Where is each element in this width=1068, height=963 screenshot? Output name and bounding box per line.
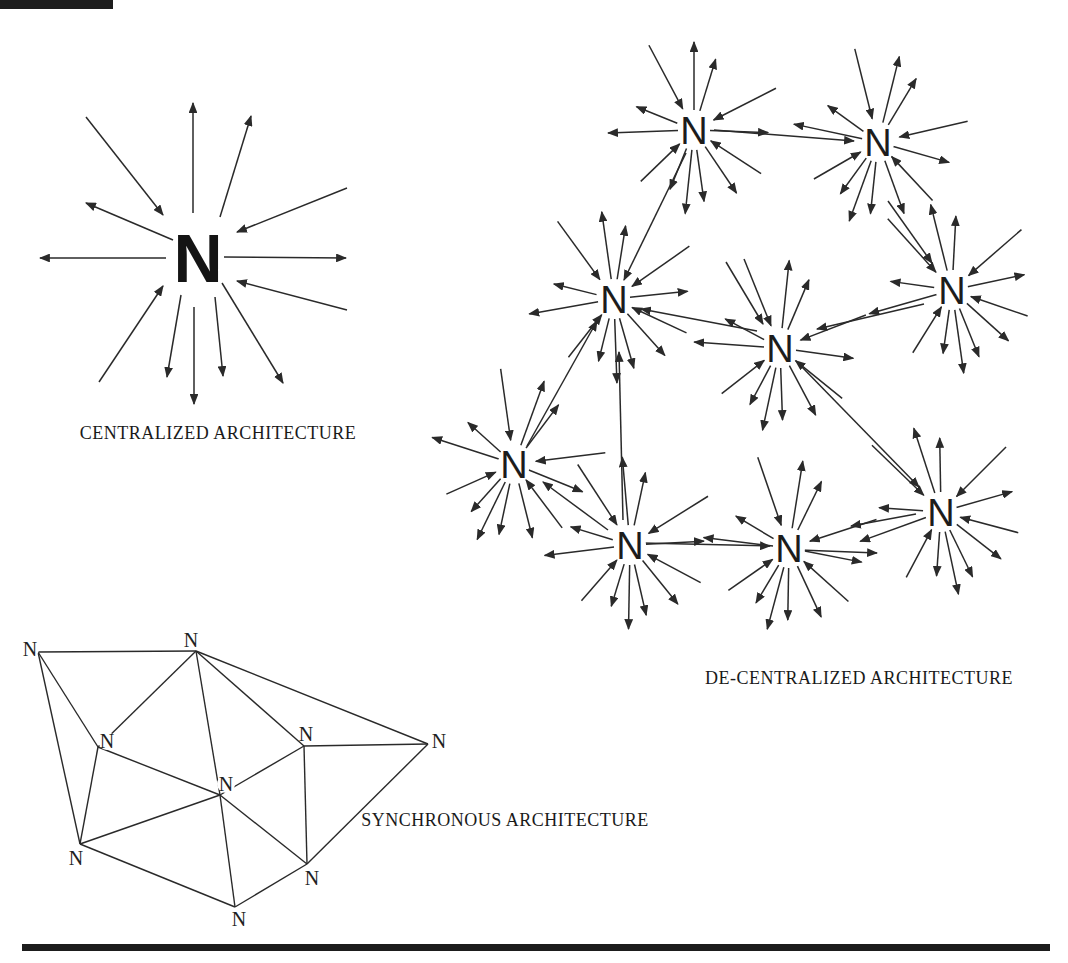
decentralized-node: N: [616, 525, 643, 567]
arrow: [641, 144, 680, 182]
mesh-edge: [38, 652, 80, 844]
mesh-edge: [196, 651, 220, 795]
arrow: [224, 257, 346, 258]
arrow: [86, 117, 163, 215]
mesh-edge: [38, 652, 98, 747]
decentralized-node: N: [927, 492, 954, 534]
arrow: [796, 361, 843, 399]
arrow: [953, 216, 956, 270]
arrow: [892, 157, 933, 201]
arrow: [697, 150, 704, 201]
arrow: [629, 565, 630, 629]
arrow: [955, 310, 964, 373]
mesh-edge: [220, 795, 307, 864]
arrow: [602, 212, 611, 279]
arrow: [611, 564, 624, 606]
decentralized-node: N: [938, 270, 965, 312]
top-left-print-mark: [0, 0, 113, 9]
arrow: [943, 310, 949, 354]
arrow: [581, 560, 616, 601]
arrow: [477, 482, 505, 540]
arrow: [870, 162, 875, 214]
arrow: [957, 447, 1006, 496]
arrow: [750, 366, 771, 405]
arrow: [767, 567, 784, 629]
centralized-node: N: [173, 220, 222, 296]
synchronous-node: N: [432, 730, 446, 752]
arrow: [519, 483, 533, 537]
arrow: [167, 295, 181, 377]
synchronous-node: N: [100, 730, 114, 752]
arrow: [714, 130, 854, 141]
arrow: [700, 59, 716, 111]
arrow: [885, 161, 904, 214]
synchronous-node: N: [299, 723, 313, 745]
mesh-edge: [235, 864, 307, 907]
arrow: [801, 366, 919, 487]
synchronous-node: N: [219, 773, 233, 795]
mesh-edge: [307, 744, 428, 864]
arrow: [937, 532, 940, 576]
arrow: [529, 470, 583, 492]
arrow: [558, 221, 600, 279]
arrow: [913, 307, 942, 353]
synchronous-node: N: [23, 638, 37, 660]
arrow: [99, 286, 163, 382]
synchronous-node: N: [69, 847, 83, 869]
arrow: [736, 516, 774, 539]
arrow: [914, 428, 935, 493]
arrow: [931, 205, 947, 271]
arrow: [711, 141, 761, 174]
mesh-edge: [304, 744, 428, 746]
arrow: [971, 297, 1028, 317]
arrow: [620, 318, 634, 368]
arrow: [899, 121, 967, 137]
arrow: [788, 568, 789, 620]
decentralized-node: N: [680, 110, 707, 152]
synchronous-architecture-caption: SYNCHRONOUS ARCHITECTURE: [361, 810, 649, 831]
arrow: [782, 260, 789, 328]
arrow: [869, 294, 936, 313]
arrow: [792, 461, 803, 528]
mesh-edge: [98, 747, 220, 795]
arrow: [599, 318, 610, 361]
arrow: [872, 445, 924, 495]
arrow: [630, 291, 688, 297]
arrow: [893, 146, 949, 162]
arrow: [714, 88, 776, 120]
synchronous-node: N: [184, 629, 198, 651]
arrow: [649, 496, 708, 533]
arrow: [649, 45, 683, 109]
arrow: [471, 479, 500, 512]
arrow: [237, 188, 347, 232]
arrow: [945, 532, 958, 595]
synchronous-node: N: [232, 908, 246, 930]
arrow: [685, 150, 692, 214]
arrow: [855, 49, 872, 119]
arrow: [960, 517, 1018, 533]
arrow: [694, 342, 764, 347]
arrow: [526, 480, 562, 528]
arrow: [758, 457, 781, 525]
arrow: [237, 281, 347, 310]
arrow: [578, 464, 617, 524]
arrow: [220, 116, 251, 217]
centralized-architecture-caption: CENTRALIZED ARCHITECTURE: [80, 423, 356, 444]
mesh-edge: [80, 844, 235, 907]
arrow: [968, 275, 1025, 287]
decentralized-node: N: [766, 328, 793, 370]
arrow: [634, 473, 645, 526]
arrow: [969, 230, 1022, 276]
arrow: [849, 161, 871, 221]
arrow: [215, 297, 223, 376]
arrow: [632, 246, 689, 286]
decentralized-architecture-caption: DE-CENTRALIZED ARCHITECTURE: [705, 668, 1013, 689]
arrow: [840, 158, 866, 194]
decentralized-node: N: [864, 122, 891, 164]
decentralized-node: N: [500, 444, 527, 486]
arrow: [446, 472, 495, 494]
arrow: [891, 281, 935, 287]
decentralized-node: N: [775, 528, 802, 570]
arrow: [554, 284, 597, 295]
bottom-divider-rule: [22, 944, 1050, 951]
